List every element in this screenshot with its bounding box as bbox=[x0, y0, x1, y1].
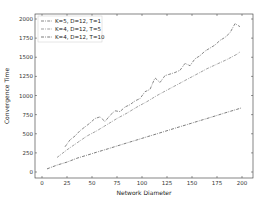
x-tick-label: 75 bbox=[114, 180, 121, 186]
x-tick-label: 100 bbox=[137, 180, 148, 186]
y-axis-label: Convergence Time bbox=[3, 68, 11, 124]
legend-entry: K=4, D=12, T=5 bbox=[55, 26, 102, 32]
x-tick-label: 200 bbox=[237, 180, 248, 186]
y-tick-label: 500 bbox=[23, 131, 34, 137]
x-axis-label: Network Diameter bbox=[117, 189, 173, 196]
x-tick-label: 0 bbox=[40, 180, 44, 186]
legend-entry: K=4, D=12, T=10 bbox=[55, 34, 105, 40]
y-tick-label: 1500 bbox=[19, 54, 33, 60]
y-tick-label: 2000 bbox=[19, 16, 33, 22]
y-tick-label: 0 bbox=[30, 169, 34, 175]
y-tick-label: 250 bbox=[23, 150, 34, 156]
x-tick-label: 50 bbox=[89, 180, 96, 186]
legend: K=5, D=12, T=1K=4, D=12, T=5K=4, D=12, T… bbox=[38, 16, 105, 42]
x-tick-label: 25 bbox=[64, 180, 71, 186]
y-tick-label: 1750 bbox=[19, 35, 33, 41]
y-tick-label: 1000 bbox=[19, 93, 33, 99]
y-tick-label: 1250 bbox=[19, 73, 33, 79]
y-tick-label: 750 bbox=[23, 112, 34, 118]
line-chart: 025050075010001250150017502000 025507510… bbox=[0, 0, 266, 207]
x-tick-label: 125 bbox=[162, 180, 173, 186]
x-tick-label: 150 bbox=[187, 180, 198, 186]
legend-entry: K=5, D=12, T=1 bbox=[55, 18, 101, 24]
x-tick-label: 175 bbox=[212, 180, 223, 186]
